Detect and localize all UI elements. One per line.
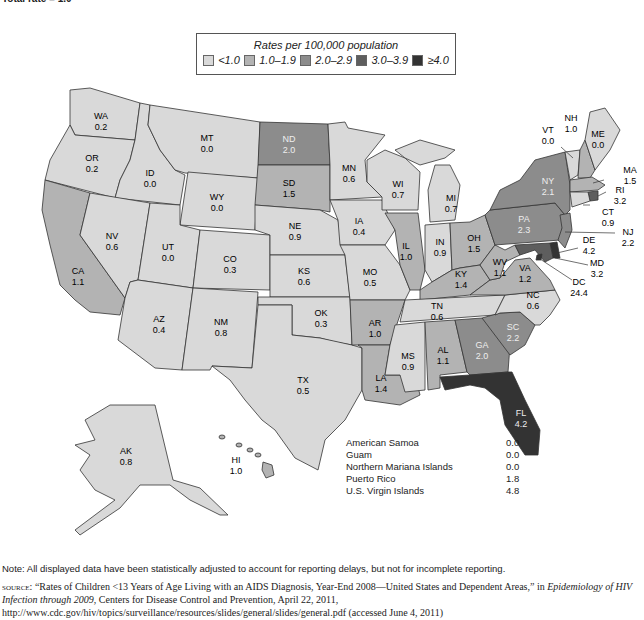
- source-citation: source: “Rates of Children <13 Years of …: [2, 580, 642, 619]
- label-MD: MD3.2: [590, 258, 604, 279]
- table-row: Northern Mariana Islands0.0: [346, 461, 519, 473]
- us-map: WA0.2 OR0.2 CA1.1 ID0.0 NV0.6 MT0.0 WY0.…: [0, 0, 644, 560]
- label-AK: AK0.8: [120, 446, 133, 467]
- territory-value: 0.0: [506, 449, 519, 461]
- label-LA: LA1.4: [375, 373, 388, 394]
- note: Note: All displayed data have been stati…: [2, 563, 505, 574]
- label-KY: KY1.4: [455, 269, 468, 290]
- label-MI: MI0.7: [445, 193, 458, 214]
- label-CA: CA1.1: [72, 266, 85, 287]
- label-WI: WI0.7: [392, 179, 405, 200]
- label-TX: TX0.5: [297, 375, 310, 396]
- label-MO: MO0.5: [363, 267, 378, 288]
- label-VT: VT0.0: [542, 125, 555, 146]
- label-NY: NY2.1: [542, 176, 555, 197]
- label-GA: GA2.0: [475, 340, 488, 361]
- label-TN: TN0.6: [431, 301, 444, 322]
- label-NV: NV0.6: [106, 231, 119, 252]
- label-AR: AR1.0: [369, 318, 382, 339]
- label-AZ: AZ0.4: [153, 314, 166, 335]
- territory-name: Northern Mariana Islands: [346, 461, 506, 473]
- state-AK: [75, 405, 228, 535]
- label-WV: WV1.1: [493, 257, 508, 278]
- table-row: Guam0.0: [346, 449, 519, 461]
- label-ME: ME0.0: [591, 129, 605, 150]
- label-PA: PA2.3: [518, 214, 531, 235]
- table-row: American Samoa0.0: [346, 437, 519, 449]
- label-HI: HI1.0: [230, 455, 243, 476]
- label-MA: MA1.5: [623, 165, 637, 186]
- state-HI: [219, 435, 274, 478]
- territory-value: 0.0: [506, 437, 519, 449]
- label-WY: WY0.0: [210, 192, 225, 213]
- label-DE: DE4.2: [583, 235, 596, 256]
- label-SC: SC2.2: [507, 322, 520, 343]
- territories-table: American Samoa0.0 Guam0.0 Northern Maria…: [346, 437, 519, 497]
- label-WA: WA0.2: [94, 111, 108, 132]
- label-NE: NE0.9: [289, 221, 302, 242]
- label-NJ: NJ2.2: [622, 227, 635, 248]
- territory-name: American Samoa: [346, 437, 506, 449]
- territory-name: Puerto Rico: [346, 473, 506, 485]
- label-SD: SD1.5: [283, 178, 296, 199]
- label-FL: FL4.2: [515, 408, 528, 429]
- territory-value: 0.0: [506, 461, 519, 473]
- label-MT: MT0.0: [201, 133, 214, 154]
- territory-value: 1.8: [506, 473, 519, 485]
- label-MN: MN0.6: [342, 163, 356, 184]
- label-NH: NH1.0: [565, 113, 578, 134]
- label-DC: DC24.4: [570, 277, 588, 298]
- label-CT: CT0.9: [602, 207, 615, 228]
- label-IN: IN0.9: [434, 237, 447, 258]
- source-text: “Rates of Children <13 Years of Age Livi…: [32, 581, 547, 592]
- label-OK: OK0.3: [314, 308, 327, 329]
- label-RI: RI3.2: [614, 185, 627, 206]
- label-UT: UT0.0: [162, 242, 175, 263]
- label-KS: KS0.6: [298, 266, 311, 287]
- territory-value: 4.8: [506, 485, 519, 497]
- label-MS: MS0.9: [401, 351, 415, 372]
- territory-name: Guam: [346, 449, 506, 461]
- table-row: Puerto Rico1.8: [346, 473, 519, 485]
- state-NY: [490, 152, 570, 215]
- label-ND: ND2.0: [283, 134, 296, 155]
- label-NM: NM0.8: [214, 317, 228, 338]
- state-MA: [570, 177, 605, 192]
- table-row: U.S. Virgin Islands4.8: [346, 485, 519, 497]
- territory-name: U.S. Virgin Islands: [346, 485, 506, 497]
- label-VA: VA1.2: [519, 263, 532, 284]
- label-AL: AL1.1: [437, 345, 450, 366]
- label-CO: CO0.3: [223, 254, 237, 275]
- source-label: source:: [2, 581, 32, 592]
- state-KS: [270, 255, 350, 297]
- label-ID: ID0.0: [144, 168, 157, 189]
- label-NC: NC0.6: [527, 290, 540, 311]
- state-DC: [536, 254, 542, 260]
- label-OR: OR0.2: [85, 153, 99, 174]
- label-OH: OH1.5: [467, 233, 481, 254]
